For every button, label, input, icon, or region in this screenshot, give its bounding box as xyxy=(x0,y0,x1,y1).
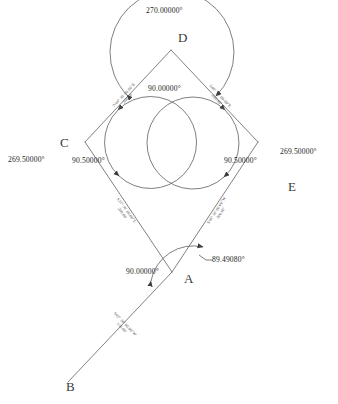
angle-arc-c-reflex xyxy=(118,97,197,189)
angle-arc-a-interior xyxy=(151,246,203,281)
angle-arc-c-interior xyxy=(105,110,119,176)
leader-line-a xyxy=(199,255,206,260)
segment-ea xyxy=(172,142,258,272)
segment-ab xyxy=(68,272,172,382)
diagram-svg xyxy=(0,0,338,404)
segment-de xyxy=(171,50,258,142)
segment-cd xyxy=(85,50,171,142)
angle-arc-e-reflex xyxy=(147,97,225,189)
segment-ac xyxy=(85,142,172,272)
cad-drawing-canvas: D C E A B 270.00000° 90.00000° 269.50000… xyxy=(0,0,338,404)
angle-arc-d-reflex xyxy=(110,0,234,96)
